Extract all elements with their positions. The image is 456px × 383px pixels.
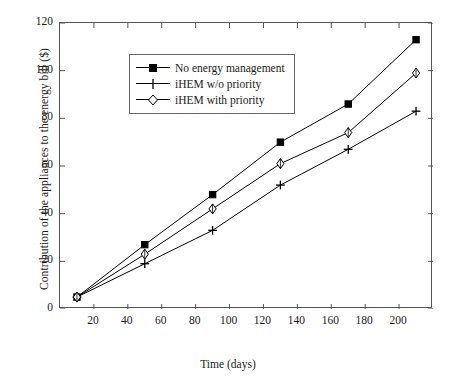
filled-square-icon (136, 61, 170, 75)
y-tick-label: 20 (13, 254, 53, 266)
x-tick-label: 200 (378, 315, 418, 327)
y-tick-label: 60 (13, 159, 53, 171)
chart-legend: No energy management iHEM w/o priority (129, 54, 295, 114)
open-diamond-icon (136, 93, 170, 107)
y-tick-label: 120 (13, 16, 53, 28)
x-axis-title: Time (days) (0, 358, 456, 370)
y-tick-label: 40 (13, 207, 53, 219)
legend-item: iHEM with priority (136, 92, 285, 108)
legend-item: iHEM w/o priority (136, 76, 285, 92)
plot-area: No energy management iHEM w/o priority (59, 22, 432, 308)
y-tick-label: 100 (13, 64, 53, 76)
legend-item-label: iHEM w/o priority (175, 77, 261, 91)
legend-item-label: No energy management (175, 61, 285, 75)
plus-icon (136, 77, 170, 91)
legend-item-label: iHEM with priority (175, 93, 264, 107)
y-tick-label: 0 (13, 302, 53, 314)
y-tick-label: 80 (13, 111, 53, 123)
chart-figure: Contribution of the appliances to the en… (0, 0, 456, 383)
legend-item: No energy management (136, 60, 285, 76)
